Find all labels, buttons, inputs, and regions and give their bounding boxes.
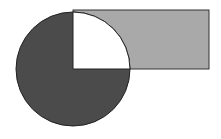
geometric-diagram <box>0 0 221 139</box>
